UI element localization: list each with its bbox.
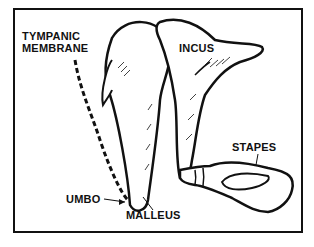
label-tympanic: TYMPANIC	[22, 30, 88, 42]
label-malleus: MALLEUS	[126, 209, 181, 221]
label-tympanic-membrane: TYMPANIC MEMBRANE	[22, 30, 88, 54]
label-membrane: MEMBRANE	[22, 42, 88, 54]
label-umbo: UMBO	[66, 193, 100, 205]
label-incus: INCUS	[179, 42, 214, 54]
label-stapes: STAPES	[232, 141, 276, 153]
